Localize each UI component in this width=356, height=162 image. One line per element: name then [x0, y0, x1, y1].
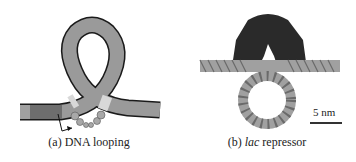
panel-lac-repressor: (b) lac repressor [178, 0, 356, 162]
caption-b: (b) lac repressor [178, 135, 356, 150]
scale-bar-label: 5 nm [313, 106, 335, 118]
panel-dna-looping: (a) DNA looping [0, 0, 178, 162]
scale-bar [310, 122, 342, 124]
caption-a: (a) DNA looping [0, 135, 178, 150]
